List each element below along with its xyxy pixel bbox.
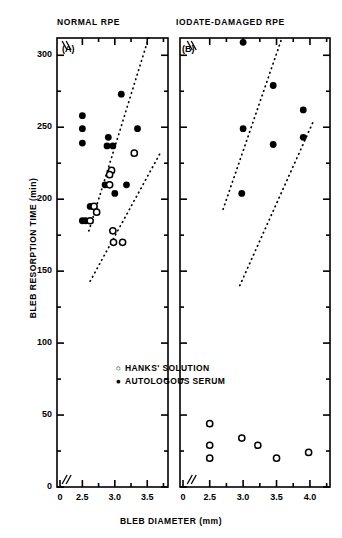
panel-b-x-tick-label-4: 4.0 bbox=[297, 492, 323, 502]
y-tick-label-300: 300 bbox=[22, 49, 52, 59]
panel-a-point-hanks-solution bbox=[94, 209, 100, 215]
panel-a-frame bbox=[57, 38, 168, 487]
panel-a-point-hanks-solution bbox=[119, 239, 125, 245]
panel-a-point-autologous-serum bbox=[79, 125, 86, 132]
panel-b-x-tick-label-0: 0 bbox=[170, 492, 196, 502]
panel-a-point-hanks-solution bbox=[107, 172, 113, 178]
y-tick-label-100: 100 bbox=[22, 337, 52, 347]
y-tick-label-150: 150 bbox=[22, 265, 52, 275]
figure-scatter-bleb-resorption: NORMAL RPE IODATE-DAMAGED RPE (A) (B) BL… bbox=[0, 0, 342, 538]
panel-a-point-autologous-serum bbox=[104, 143, 111, 150]
panel-b-x-tick-label-3.5: 3.5 bbox=[264, 492, 290, 502]
panel-b-x-tick-label-3: 3.0 bbox=[230, 492, 256, 502]
panel-a-envelope-line bbox=[90, 153, 160, 281]
panel-a-x-tick-label-2.5: 2.5 bbox=[69, 492, 95, 502]
panel-a-point-autologous-serum bbox=[111, 190, 118, 197]
panel-b-point-autologous-serum bbox=[240, 39, 247, 46]
panel-b-point-autologous-serum bbox=[238, 190, 245, 197]
panel-a-x-tick-label-3: 3.0 bbox=[102, 492, 128, 502]
panel-b-point-hanks-solution bbox=[306, 449, 312, 455]
panel-b-point-autologous-serum bbox=[300, 134, 307, 141]
panel-a-point-autologous-serum bbox=[105, 134, 112, 141]
panel-a-point-autologous-serum bbox=[134, 125, 141, 132]
panel-b-point-hanks-solution bbox=[207, 455, 213, 461]
y-tick-label-250: 250 bbox=[22, 121, 52, 131]
panel-b-point-hanks-solution bbox=[239, 435, 245, 441]
panel-a-point-hanks-solution bbox=[131, 150, 137, 156]
panel-a-point-hanks-solution bbox=[110, 228, 116, 234]
panel-b-point-autologous-serum bbox=[300, 107, 307, 114]
panel-b-frame bbox=[180, 38, 330, 487]
panel-a-envelope-line bbox=[89, 38, 149, 231]
panel-b-point-hanks-solution bbox=[207, 421, 213, 427]
panel-a-x-tick-label-3.5: 3.5 bbox=[134, 492, 160, 502]
panel-a-point-hanks-solution bbox=[87, 218, 93, 224]
y-tick-label-200: 200 bbox=[22, 193, 52, 203]
panel-a-point-autologous-serum bbox=[118, 91, 125, 98]
panel-a-point-autologous-serum bbox=[79, 140, 86, 147]
panel-b-point-autologous-serum bbox=[270, 141, 277, 148]
panel-a-point-autologous-serum bbox=[123, 181, 130, 188]
panel-a-point-hanks-solution bbox=[110, 239, 116, 245]
panel-b-envelope-line bbox=[240, 121, 314, 285]
panel-b-x-tick-label-2.5: 2.5 bbox=[197, 492, 223, 502]
panel-a-point-hanks-solution bbox=[107, 182, 113, 188]
panel-b-point-autologous-serum bbox=[240, 125, 247, 132]
panel-b-point-autologous-serum bbox=[270, 82, 277, 89]
panel-b-envelope-line bbox=[223, 38, 282, 209]
panel-a-point-autologous-serum bbox=[79, 112, 86, 119]
y-tick-label-50: 50 bbox=[22, 409, 52, 419]
panel-b-point-hanks-solution bbox=[207, 442, 213, 448]
y-tick-label-0: 0 bbox=[22, 481, 52, 491]
panel-a-point-autologous-serum bbox=[109, 143, 116, 150]
panel-b-point-hanks-solution bbox=[273, 455, 279, 461]
panel-b-point-hanks-solution bbox=[255, 442, 261, 448]
